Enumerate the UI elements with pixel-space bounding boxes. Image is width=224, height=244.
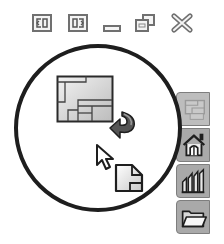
tile-right-button[interactable] <box>67 13 89 33</box>
tile-left-button[interactable] <box>31 13 53 33</box>
side-tab-reports[interactable] <box>176 164 210 198</box>
restore-button[interactable] <box>134 13 156 33</box>
restore-icon <box>134 13 156 33</box>
new-document[interactable] <box>114 163 144 193</box>
bar-chart-icon <box>177 165 209 197</box>
tile-right-icon <box>67 13 89 33</box>
minimize-icon <box>101 13 123 33</box>
close-button[interactable] <box>171 13 193 33</box>
minimize-button[interactable] <box>101 13 123 33</box>
side-tab-files[interactable] <box>176 200 210 234</box>
folder-icon <box>177 201 209 233</box>
floor-plan-layout[interactable] <box>56 75 114 123</box>
floor-plan-icon <box>177 93 209 125</box>
floor-plan-icon <box>56 75 114 123</box>
document-icon <box>114 163 144 193</box>
curved-arrow <box>108 110 138 142</box>
close-icon <box>171 13 193 33</box>
tile-left-icon <box>31 13 53 33</box>
callout-circle <box>14 44 182 212</box>
curved-arrow-icon <box>108 110 138 142</box>
